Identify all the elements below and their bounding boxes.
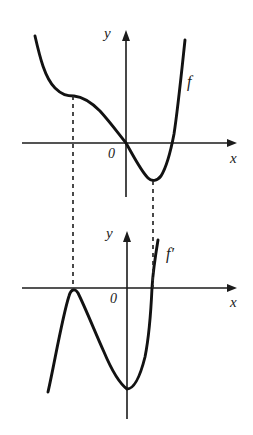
upper-y-axis-arrowhead — [122, 30, 130, 41]
upper-x-axis-label: x — [230, 151, 237, 166]
lower-origin-label: 0 — [110, 292, 117, 306]
upper-origin-label: 0 — [108, 147, 115, 161]
upper-y-axis-label: y — [104, 26, 111, 41]
figure-canvas — [0, 0, 253, 435]
upper-plot-group — [22, 30, 237, 197]
upper-x-axis-arrowhead — [227, 139, 237, 147]
lower-plot-group — [22, 231, 237, 419]
lower-y-axis-arrowhead — [123, 231, 131, 242]
lower-y-axis-label: y — [106, 226, 113, 241]
curve-f-prime — [48, 240, 158, 392]
math-figure: y x 0 f y x 0 f′ — [0, 0, 253, 435]
curve-f-prime-label: f′ — [166, 246, 174, 262]
lower-x-axis-label: x — [230, 295, 237, 310]
curve-f-label: f — [187, 74, 191, 90]
lower-x-axis-arrowhead — [227, 284, 237, 292]
